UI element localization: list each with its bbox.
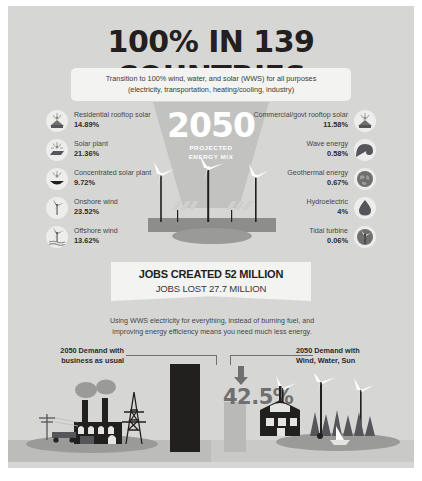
source-text: Geothermal energy 0.67% <box>287 168 348 189</box>
demand-label-business-as-usual: 2050 Demand with business as usual <box>20 346 124 366</box>
energy-sources-right-column: Commercial/govt rooftop solar 11.58% Wav… <box>248 110 376 255</box>
source-value: 21.36% <box>74 149 99 158</box>
source-row: Solar plant 21.36% <box>46 139 166 161</box>
efficiency-note-line-1: Using WWS electricity for everything, in… <box>81 316 343 327</box>
source-text: Commercial/govt rooftop solar 11.58% <box>253 110 348 131</box>
energy-sources-left-column: Residential rooftop solar 14.89% Solar p… <box>46 110 166 255</box>
source-value: 4% <box>337 207 348 216</box>
jobs-lost-text: JOBS LOST 27.7 MILLION <box>115 283 307 294</box>
source-row: Wave energy 0.58% <box>248 139 376 161</box>
demand-label-bau-line-2: business as usual <box>20 356 124 366</box>
demand-bar-wws <box>224 402 246 452</box>
source-label: Geothermal energy <box>287 169 348 177</box>
source-text: Residential rooftop solar 14.89% <box>74 110 151 131</box>
rooftop-solar-icon <box>46 110 68 132</box>
onshore-wind-icon <box>46 197 68 219</box>
efficiency-note: Using WWS electricity for everything, in… <box>81 316 343 337</box>
jobs-created-text: JOBS CREATED 52 MILLION <box>115 268 307 280</box>
source-label: Commercial/govt rooftop solar <box>253 111 348 119</box>
source-text: Offshore wind 13.62% <box>74 226 118 247</box>
source-row: Offshore wind 13.62% <box>46 226 166 248</box>
clean-energy-scene-illustration <box>258 374 414 454</box>
subtitle-box: Transition to 100% wind, water, and sola… <box>71 68 351 101</box>
source-label: Solar plant <box>74 140 108 148</box>
source-value: 9.72% <box>74 178 95 187</box>
source-value: 0.67% <box>327 178 348 187</box>
source-value: 0.06% <box>327 236 348 245</box>
source-label: Residential rooftop solar <box>74 111 151 119</box>
source-value: 0.58% <box>327 149 348 158</box>
source-row: Hydroelectric 4% <box>248 197 376 219</box>
source-row: Commercial/govt rooftop solar 11.58% <box>248 110 376 132</box>
concentrated-solar-icon <box>46 168 68 190</box>
source-value: 13.62% <box>74 236 99 245</box>
industrial-scene-illustration <box>22 378 172 454</box>
source-text: Onshore wind 23.52% <box>74 197 118 218</box>
source-text: Solar plant 21.36% <box>74 139 108 160</box>
infographic-panel: 100% IN 139 COUNTRIES Transition to 100%… <box>8 6 414 468</box>
source-text: Wave energy 0.58% <box>306 139 348 160</box>
source-text: Concentrated solar plant 9.72% <box>74 168 151 189</box>
source-value: 23.52% <box>74 207 99 216</box>
source-label: Concentrated solar plant <box>74 169 151 177</box>
source-value: 11.58% <box>323 120 348 129</box>
source-value: 14.89% <box>74 120 99 129</box>
source-label: Offshore wind <box>74 227 118 235</box>
solar-plant-icon <box>46 139 68 161</box>
commercial-rooftop-solar-icon <box>354 110 376 132</box>
source-row: Residential rooftop solar 14.89% <box>46 110 166 132</box>
source-row: Geothermal energy 0.67% <box>248 168 376 190</box>
subtitle-line-1: Transition to 100% wind, water, and sola… <box>79 74 343 85</box>
offshore-wind-icon <box>46 226 68 248</box>
geothermal-icon <box>354 168 376 190</box>
hydroelectric-icon <box>354 197 376 219</box>
source-label: Onshore wind <box>74 198 118 206</box>
source-text: Tidal turbine 0.06% <box>309 226 348 247</box>
source-text: Hydroelectric 4% <box>307 197 348 218</box>
bracket-right <box>230 355 313 365</box>
efficiency-note-line-2: improving energy efficiency means you ne… <box>81 327 343 338</box>
jobs-banner: JOBS CREATED 52 MILLION JOBS LOST 27.7 M… <box>111 262 311 301</box>
demand-label-bau-line-1: 2050 Demand with <box>20 346 124 356</box>
source-row: Tidal turbine 0.06% <box>248 226 376 248</box>
source-row: Concentrated solar plant 9.72% <box>46 168 166 190</box>
source-row: Onshore wind 23.52% <box>46 197 166 219</box>
reduction-arrow-icon <box>232 366 250 386</box>
source-label: Tidal turbine <box>309 227 348 235</box>
subtitle-line-2: (electricity, transportation, heating/co… <box>79 85 343 96</box>
demand-bar-business-as-usual <box>170 364 200 452</box>
source-label: Hydroelectric <box>307 198 348 206</box>
wave-energy-icon <box>354 139 376 161</box>
tidal-turbine-icon <box>354 226 376 248</box>
source-label: Wave energy <box>306 140 348 148</box>
